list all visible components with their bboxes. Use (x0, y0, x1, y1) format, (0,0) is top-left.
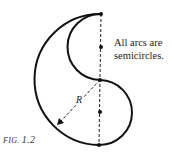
top-point-dot (99, 12, 103, 16)
bottom-point-dot (97, 143, 101, 147)
lower-center-dot (98, 110, 102, 114)
upper-small-semicircle-arc (68, 14, 101, 80)
annotation-line-2: semicircles. (114, 49, 176, 62)
caption-number: 1.2 (22, 134, 35, 145)
semicircle-figure (0, 0, 177, 154)
figure-caption: FIG. 1.2 (3, 134, 35, 145)
annotation-line-1: All arcs are (114, 36, 176, 49)
upper-center-dot (99, 45, 103, 49)
lower-small-semicircle-arc (99, 80, 132, 145)
radius-label: R (75, 94, 83, 105)
caption-prefix: FIG. (3, 136, 20, 145)
radius-arrowhead-icon (57, 118, 64, 125)
annotation-text: All arcs are semicircles. (114, 36, 176, 62)
